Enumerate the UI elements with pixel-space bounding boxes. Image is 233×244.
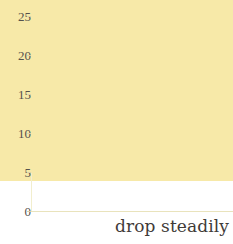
x-axis-line	[31, 211, 233, 212]
y-axis: 25 20 15 10 5 0	[0, 0, 31, 244]
chart-caption: drop steadily	[0, 216, 229, 236]
bar-chart-figure: 25 20 15 10 5 0 drop steadily	[0, 0, 233, 181]
bar-series	[31, 16, 233, 173]
bar-8	[213, 146, 233, 173]
